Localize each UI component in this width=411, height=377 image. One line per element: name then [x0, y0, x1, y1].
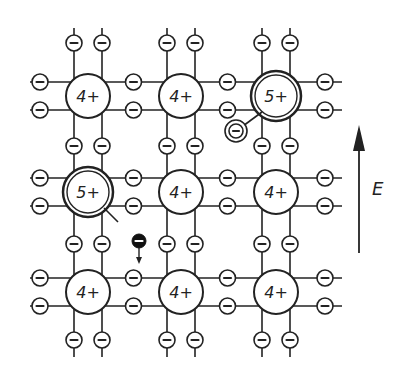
bond-electron — [66, 35, 82, 51]
donor-ion: 5+ — [251, 71, 301, 121]
bond-electron — [317, 198, 333, 214]
free-electron — [132, 234, 146, 264]
electric-field-arrow: E — [353, 125, 384, 253]
bond-electron — [187, 236, 203, 252]
bond-electron — [94, 236, 110, 252]
ion-charge-label: 4+ — [264, 283, 288, 302]
bond-electron — [220, 170, 236, 186]
lattice-svg: 4+4+5+5+4+4+4+4+4+ E — [0, 0, 411, 377]
host-ion: 4+ — [159, 170, 203, 214]
host-ion: 4+ — [66, 74, 110, 118]
bond-electron — [32, 74, 48, 90]
bond-electron — [220, 298, 236, 314]
lattice-ions: 4+4+5+5+4+4+4+4+4+ — [63, 71, 301, 314]
bond-electron — [317, 170, 333, 186]
bond-electron — [317, 102, 333, 118]
bond-electron — [126, 170, 142, 186]
bond-electron — [159, 35, 175, 51]
bound-electron — [225, 120, 247, 142]
bond-electron — [159, 138, 175, 154]
bond-electron — [159, 332, 175, 348]
host-ion: 4+ — [159, 74, 203, 118]
bond-electron — [220, 102, 236, 118]
bond-electron — [282, 35, 298, 51]
bond-electron — [254, 138, 270, 154]
bond-electron — [94, 138, 110, 154]
bond-electron — [126, 102, 142, 118]
bound-electron-link — [243, 112, 262, 126]
ion-charge-label: 4+ — [264, 183, 288, 202]
bond-electron — [159, 236, 175, 252]
bond-electron — [220, 74, 236, 90]
bond-electron — [66, 236, 82, 252]
ion-charge-label: 4+ — [76, 87, 100, 106]
ion-charge-label: 4+ — [169, 283, 193, 302]
bond-electron — [126, 198, 142, 214]
bond-electron — [317, 270, 333, 286]
bond-electron — [66, 332, 82, 348]
field-label: E — [372, 178, 384, 199]
bond-electron — [220, 270, 236, 286]
bond-electron — [32, 170, 48, 186]
bond-electron — [254, 332, 270, 348]
ion-charge-label: 5+ — [76, 183, 100, 202]
bond-electron — [126, 298, 142, 314]
ion-charge-label: 4+ — [169, 87, 193, 106]
ion-charge-label: 4+ — [76, 283, 100, 302]
bond-electron — [282, 138, 298, 154]
bond-electron — [254, 236, 270, 252]
bond-electron — [32, 102, 48, 118]
bond-electron — [254, 35, 270, 51]
ion-charge-label: 4+ — [169, 183, 193, 202]
host-ion: 4+ — [159, 270, 203, 314]
bond-electron — [317, 298, 333, 314]
host-ion: 4+ — [66, 270, 110, 314]
bond-electron — [282, 236, 298, 252]
bond-electron — [32, 270, 48, 286]
bond-electron — [66, 138, 82, 154]
bond-electron — [32, 298, 48, 314]
bond-electron — [126, 74, 142, 90]
bond-electron — [187, 35, 203, 51]
lattice-diagram: 4+4+5+5+4+4+4+4+4+ E — [0, 0, 411, 377]
bond-electron — [187, 138, 203, 154]
bond-electron — [94, 35, 110, 51]
bond-electron — [220, 198, 236, 214]
bond-electron — [317, 74, 333, 90]
bond-electron — [282, 332, 298, 348]
bond-electron — [126, 270, 142, 286]
host-ion: 4+ — [254, 170, 298, 214]
ionized-donor-link — [104, 208, 118, 222]
ion-charge-label: 5+ — [264, 87, 288, 106]
bond-electron — [187, 332, 203, 348]
bond-electron — [94, 332, 110, 348]
host-ion: 4+ — [254, 270, 298, 314]
bond-electron — [32, 198, 48, 214]
